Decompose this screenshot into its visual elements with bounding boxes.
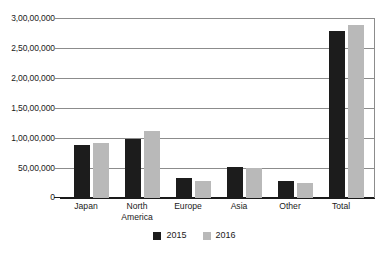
x-tick-label-other: Other bbox=[264, 201, 316, 212]
y-tick-label: 1,50,00,000 bbox=[11, 104, 55, 113]
bar-europe-2016[interactable] bbox=[195, 181, 211, 198]
bar-asia-2015[interactable] bbox=[227, 167, 243, 198]
plot-right-edge bbox=[374, 18, 375, 198]
bar-asia-2016[interactable] bbox=[246, 168, 262, 198]
bar-total-2016[interactable] bbox=[348, 25, 364, 198]
bar-japan-2016[interactable] bbox=[93, 143, 109, 198]
plot-area bbox=[60, 18, 375, 198]
bar-group-asia bbox=[227, 18, 265, 198]
legend-label-2016: 2016 bbox=[216, 231, 236, 240]
legend-item-2016[interactable]: 2016 bbox=[203, 231, 236, 240]
bar-europe-2015[interactable] bbox=[176, 178, 192, 198]
bar-group-other bbox=[278, 18, 316, 198]
x-tick-label-total: Total bbox=[315, 201, 367, 212]
bar-north-america-2015[interactable] bbox=[125, 139, 141, 198]
legend-swatch-icon bbox=[203, 232, 211, 240]
x-tick-label-japan: Japan bbox=[60, 201, 112, 212]
bar-chart: 3,00,00,000 2,50,00,000 2,00,00,000 1,50… bbox=[0, 0, 389, 256]
bar-japan-2015[interactable] bbox=[74, 145, 90, 198]
y-tick-label: 3,00,00,000 bbox=[11, 14, 55, 23]
bar-group-japan bbox=[74, 18, 112, 198]
y-tick-label: 50,00,000 bbox=[18, 164, 55, 173]
bar-other-2016[interactable] bbox=[297, 183, 313, 198]
x-tick-label-north-america: North America bbox=[111, 201, 163, 222]
chart-legend: 2015 2016 bbox=[0, 231, 389, 240]
bar-group-europe bbox=[176, 18, 214, 198]
legend-item-2015[interactable]: 2015 bbox=[153, 231, 186, 240]
y-tick-label: 2,50,00,000 bbox=[11, 44, 55, 53]
x-tick-label-europe: Europe bbox=[162, 201, 214, 212]
bar-total-2015[interactable] bbox=[329, 31, 345, 198]
bar-north-america-2016[interactable] bbox=[144, 131, 160, 198]
legend-label-2015: 2015 bbox=[166, 231, 186, 240]
y-tick-label: 1,00,00,000 bbox=[11, 134, 55, 143]
bar-other-2015[interactable] bbox=[278, 181, 294, 198]
bar-group-north-america bbox=[125, 18, 163, 198]
x-tick-label-asia: Asia bbox=[213, 201, 265, 212]
bar-group-total bbox=[329, 18, 367, 198]
legend-swatch-icon bbox=[153, 232, 161, 240]
y-tick-label: 2,00,00,000 bbox=[11, 74, 55, 83]
